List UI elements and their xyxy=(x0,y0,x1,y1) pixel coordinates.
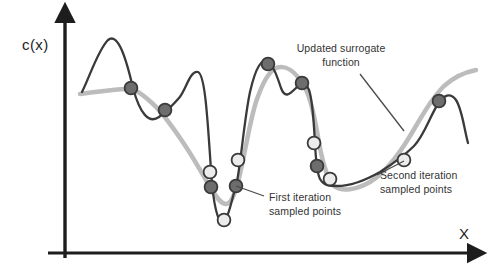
annotation-updated-surrogate-line2: function xyxy=(322,56,360,68)
annotation-second-iteration-line1: Second iteration xyxy=(380,169,458,181)
sampled-point-marker xyxy=(262,58,275,71)
annotation-updated-surrogate-line1: Updated surrogate xyxy=(297,42,386,54)
x-axis-label: X xyxy=(459,225,469,242)
y-axis-label: c(x) xyxy=(22,36,49,53)
sampled-point-marker xyxy=(204,166,217,179)
sampled-point-marker xyxy=(398,154,411,167)
sampled-point-marker xyxy=(159,104,172,117)
sampled-point-marker xyxy=(205,181,218,194)
sampled-point-marker xyxy=(218,214,231,227)
sampled-point-marker xyxy=(433,95,446,108)
sampled-point-marker xyxy=(232,154,245,167)
annotation-updated-surrogate: Updated surrogate function xyxy=(297,42,386,68)
sampled-point-marker xyxy=(308,137,321,150)
chart-canvas: c(x) X Updated surrogate function First … xyxy=(0,0,493,278)
annotation-first-iteration-line1: First iteration xyxy=(269,191,331,203)
sampled-point-marker xyxy=(125,82,138,95)
sampled-point-marker xyxy=(324,173,337,186)
annotation-leader-line xyxy=(360,74,404,131)
annotation-first-iteration: First iteration sampled points xyxy=(269,191,341,217)
sampled-point-marker xyxy=(296,77,309,90)
annotation-second-iteration: Second iteration sampled points xyxy=(380,169,458,195)
surrogate-function-figure: c(x) X Updated surrogate function First … xyxy=(0,0,493,278)
sampled-point-marker xyxy=(311,160,324,173)
annotation-first-iteration-line2: sampled points xyxy=(269,205,341,217)
annotation-second-iteration-line2: sampled points xyxy=(380,183,452,195)
